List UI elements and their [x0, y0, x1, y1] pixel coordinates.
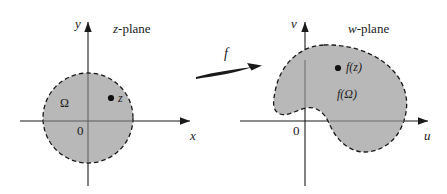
w-plane-title: w-plane	[348, 22, 389, 35]
z-plane-title-suffix: -plane	[118, 21, 150, 36]
z-plane-x-axis-label: x	[190, 129, 196, 142]
mapping-arrow	[196, 63, 262, 79]
w-plane-point-label: f(z)	[346, 61, 362, 73]
w-plane-title-suffix: -plane	[357, 21, 389, 36]
w-plane-origin-label: 0	[293, 124, 300, 137]
z-plane-point-marker	[108, 95, 114, 101]
z-plane-group	[20, 22, 190, 186]
z-plane-origin-label: 0	[77, 124, 84, 137]
w-plane-region-label: f(Ω)	[337, 88, 357, 100]
z-plane-region-label: Ω	[60, 97, 69, 109]
w-plane-title-var: w	[348, 21, 357, 36]
z-plane-title: z-plane	[113, 22, 151, 35]
w-plane-point-marker	[335, 65, 341, 71]
w-plane-group	[240, 22, 428, 186]
mapping-arrow-label: f	[224, 47, 228, 61]
w-plane-v-axis-label: v	[291, 17, 297, 30]
conformal-mapping-figure: z-plane y x 0 Ω z f w-plane v u 0 f(Ω) f…	[0, 0, 447, 194]
w-plane-u-axis-label: u	[424, 129, 431, 142]
z-plane-y-axis-label: y	[75, 17, 81, 30]
z-plane-point-label: z	[118, 92, 123, 104]
